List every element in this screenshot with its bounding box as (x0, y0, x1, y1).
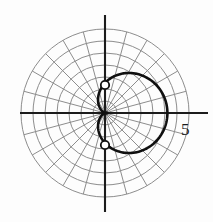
x-axis-tick-label-5: 5 (181, 121, 190, 138)
polar-plot-canvas (0, 0, 213, 222)
polar-plot-figure: 5 I (0, 0, 213, 222)
grid-spoke (105, 113, 186, 135)
grid-spoke (83, 113, 105, 194)
marker-upper (101, 81, 109, 89)
marker-lower (101, 141, 109, 149)
grid-spoke (24, 113, 105, 135)
grid-spoke (83, 32, 105, 113)
grid-spoke (24, 91, 105, 113)
grid-spoke (105, 91, 186, 113)
